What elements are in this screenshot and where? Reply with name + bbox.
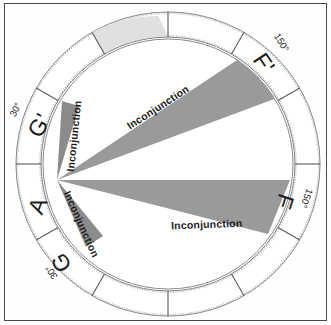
diagram-page: A G' G F' F 30° 30° 150° 150° Inconjunct…	[0, 0, 331, 325]
aspect-wheel	[0, 0, 331, 325]
